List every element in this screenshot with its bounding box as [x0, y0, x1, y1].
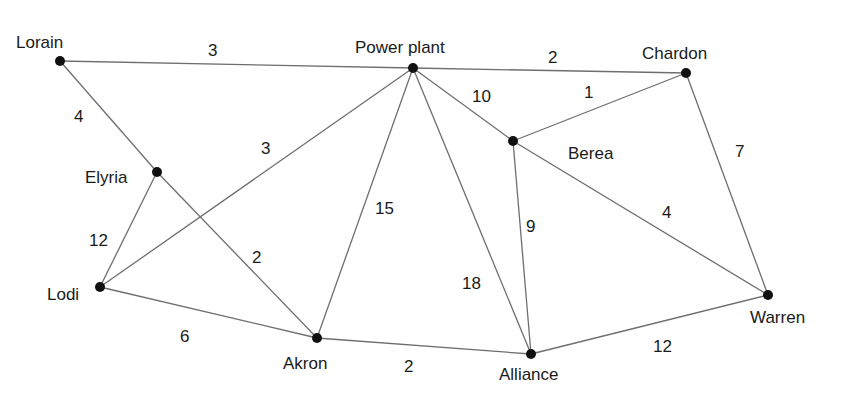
node-power-plant: [408, 63, 418, 73]
edge-alliance-warren: [531, 295, 768, 354]
graph-diagram: 324315181019471226212 LorainPower plantC…: [0, 0, 864, 404]
node-label-lodi: Lodi: [47, 285, 79, 304]
node-label-power-plant: Power plant: [355, 38, 445, 57]
edge-weight: 12: [89, 231, 108, 250]
node-label-warren: Warren: [750, 308, 805, 327]
node-labels-layer: LorainPower plantChardonElyriaBereaLodiA…: [16, 33, 805, 384]
edge-lodi-akron: [100, 287, 317, 338]
node-label-elyria: Elyria: [85, 168, 128, 187]
edge-weight: 3: [261, 139, 270, 158]
edge-weight: 4: [662, 203, 671, 222]
node-label-lorain: Lorain: [16, 33, 63, 52]
edge-weight: 6: [180, 327, 189, 346]
node-lodi: [95, 282, 105, 292]
edge-weight: 1: [584, 83, 593, 102]
edge-elyria-akron: [157, 172, 317, 338]
edge-weight: 2: [404, 357, 413, 376]
node-akron: [312, 333, 322, 343]
edge-berea-chardon: [513, 73, 686, 141]
node-warren: [763, 290, 773, 300]
edge-elyria-lodi: [100, 172, 157, 287]
edge-chardon-warren: [686, 73, 768, 295]
node-label-alliance: Alliance: [499, 365, 559, 384]
node-label-chardon: Chardon: [642, 44, 707, 63]
edge-weight: 18: [462, 274, 481, 293]
node-label-berea: Berea: [568, 144, 614, 163]
edge-berea-warren: [513, 141, 768, 295]
edge-berea-alliance: [513, 141, 531, 354]
edge-weight: 2: [252, 248, 261, 267]
edge-akron-alliance: [317, 338, 531, 354]
edge-power-plant-chardon: [413, 68, 686, 73]
edge-lorain-power-plant: [60, 61, 413, 68]
edge-weight: 7: [735, 142, 744, 161]
edge-weight: 10: [472, 87, 491, 106]
node-alliance: [526, 349, 536, 359]
node-label-akron: Akron: [283, 354, 327, 373]
node-lorain: [55, 56, 65, 66]
node-berea: [508, 136, 518, 146]
edge-weight: 15: [375, 199, 394, 218]
edge-weight: 2: [548, 48, 557, 67]
node-chardon: [681, 68, 691, 78]
edge-weight: 12: [653, 337, 672, 356]
edge-weight: 9: [526, 217, 535, 236]
edge-weight: 3: [208, 41, 217, 60]
node-elyria: [152, 167, 162, 177]
edge-weight: 4: [74, 107, 83, 126]
edge-power-plant-akron: [317, 68, 413, 338]
